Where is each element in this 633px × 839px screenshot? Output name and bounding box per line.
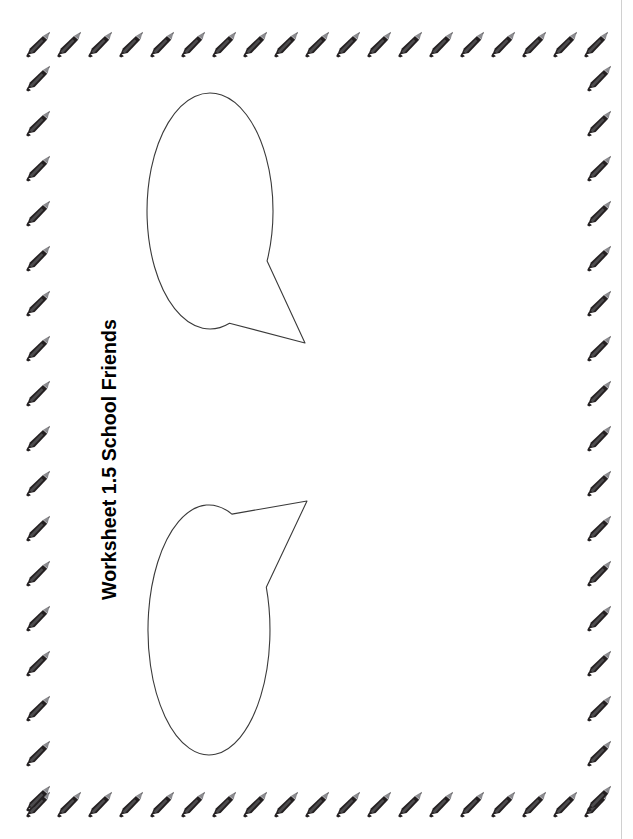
worksheet-page: Worksheet 1.5 School Friends <box>0 0 633 839</box>
speech-bubble-bottom[interactable] <box>148 501 307 755</box>
speech-bubbles-group <box>0 0 633 839</box>
speech-bubble-top[interactable] <box>147 93 305 343</box>
page-title: Worksheet 1.5 School Friends <box>96 200 122 600</box>
